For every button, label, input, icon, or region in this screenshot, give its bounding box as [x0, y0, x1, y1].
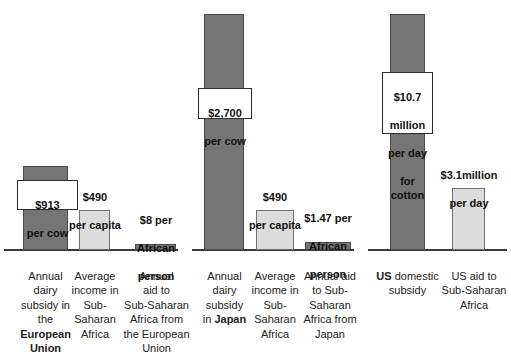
category-label-us-aid: US aid to Sub-Saharan Africa	[441, 254, 507, 312]
value-line-2: African	[309, 240, 347, 252]
value-line-2: per cow	[204, 135, 246, 147]
category-label-eu-average-income: Average income in Sub- Saharan Africa	[65, 254, 125, 341]
bar-japan-dairy-subsidy	[204, 14, 244, 250]
value-line-1: $490	[83, 191, 107, 203]
value-line-1: $10.7	[394, 91, 422, 103]
category-label-japan-average-income: Average income in Sub- Saharan Africa	[246, 254, 304, 341]
value-line-2: per day	[449, 197, 488, 209]
category-text-regular: Annual dairy subsidy in the	[21, 270, 70, 326]
value-line-2: per capita	[69, 219, 121, 231]
category-text-bold: Japan	[214, 313, 246, 325]
value-line-2: million	[390, 119, 425, 131]
category-text: Annual aid to Sub-Saharan Africa from th…	[123, 270, 189, 355]
value-line-2: per cow	[27, 227, 69, 239]
value-callout-japan-dairy-subsidy: $2,700 per cow	[198, 88, 252, 119]
chart-group-japan: $2,700 per cow $490 per capita $1.47 per…	[188, 0, 358, 339]
value-line-1: $2,700	[208, 107, 242, 119]
value-label-us-aid: $3.1million per day	[437, 154, 501, 210]
value-line-1: $913	[35, 199, 59, 211]
category-label-japan-dairy-subsidy: Annual dairy subsidy in Japan	[196, 254, 253, 327]
category-text: Average income in Sub- Saharan Africa	[71, 270, 118, 340]
category-label-japan-aid: Annual aid to Sub- Saharan Africa from J…	[298, 254, 362, 341]
category-text: Average income in Sub- Saharan Africa	[251, 270, 298, 340]
value-line-1: $8 per	[140, 214, 172, 226]
category-text: Annual aid to Sub- Saharan Africa from J…	[303, 270, 356, 340]
value-line-2: per capita	[249, 219, 301, 231]
value-line-1: $3.1million	[441, 169, 498, 181]
value-line-1: $490	[263, 191, 287, 203]
axis-baseline-us	[368, 249, 507, 251]
category-label-us-domestic-subsidy: US domestic subsidy	[373, 254, 442, 298]
value-label-japan-average-income: $490 per capita	[246, 176, 304, 232]
chart-group-united-states: $10.7 million per day for cotton $3.1mil…	[364, 0, 511, 339]
category-text-bold: European Union	[20, 328, 71, 355]
category-text-bold: US	[376, 270, 391, 282]
category-label-eu-aid: Annual aid to Sub-Saharan Africa from th…	[121, 254, 192, 356]
value-callout-us-domestic-subsidy: $10.7 million per day for cotton	[382, 72, 433, 134]
value-line-1: $1.47 per	[304, 212, 352, 224]
category-text-regular: domestic subsidy	[389, 270, 439, 297]
category-text: US aid to Sub-Saharan Africa	[442, 270, 507, 311]
value-label-eu-average-income: $490 per capita	[66, 176, 124, 232]
value-line-3: per day	[388, 147, 427, 159]
chart-group-european-union: $913 per cow $490 per capita $8 per Afri…	[0, 0, 182, 339]
value-line-2: African	[137, 242, 175, 254]
